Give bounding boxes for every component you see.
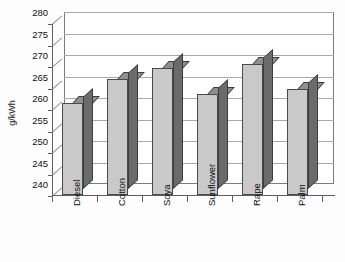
x-tick-label: Soya [161, 184, 172, 206]
y-tick-label: 280 [14, 8, 48, 17]
x-tick-mark [52, 196, 53, 202]
bar-side-face [308, 74, 318, 189]
x-tick-label: Rape [251, 183, 262, 206]
y-tick-label: 265 [14, 73, 48, 82]
bar-side-face [128, 64, 138, 189]
x-tick-mark [142, 196, 143, 202]
y-axis-tick-labels: 280 275 270 265 260 255 250 245 240 [10, 0, 48, 262]
x-tick-label: Cotton [116, 178, 127, 206]
x-tick-mark [187, 196, 188, 202]
bar-cotton[interactable] [107, 67, 140, 195]
bar-side-face [83, 88, 93, 189]
y-tick-label: 260 [14, 94, 48, 103]
bar-side-face [173, 53, 183, 189]
bars-layer [52, 12, 334, 196]
bar-side-face [263, 49, 273, 189]
x-tick-label: Palm [296, 184, 307, 206]
y-tick-label: 270 [14, 51, 48, 60]
y-tick-label: 275 [14, 30, 48, 39]
x-tick-mark [322, 196, 323, 202]
bar-front-face [242, 64, 263, 195]
x-tick-mark [232, 196, 233, 202]
bar-front-face [152, 68, 173, 195]
x-tick-label: Sunflower [206, 164, 217, 206]
y-tick-label: 250 [14, 137, 48, 146]
bar-front-face [287, 89, 308, 195]
x-axis: DieselCottonSoyaSunflowerRapePalm [52, 196, 334, 262]
x-tick-mark [97, 196, 98, 202]
bar-palm[interactable] [287, 77, 320, 195]
y-tick-label: 245 [14, 159, 48, 168]
x-tick-label: Diesel [71, 180, 82, 206]
plot-area [52, 12, 334, 196]
bar-chart: g/kWh 280 275 270 265 260 255 250 245 24… [0, 0, 345, 262]
bar-side-face [218, 79, 228, 189]
bar-rape[interactable] [242, 52, 275, 195]
y-tick-label: 255 [14, 116, 48, 125]
x-tick-mark [277, 196, 278, 202]
y-tick-label: 240 [14, 180, 48, 189]
bar-soya[interactable] [152, 56, 185, 195]
